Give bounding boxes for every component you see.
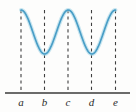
tick-label-c: c [66,96,71,108]
tick-label-group: a b c d e [18,96,118,108]
tick-label-d: d [89,96,95,108]
tick-label-a: a [18,96,24,108]
tick-label-b: b [42,96,48,108]
figure-container: a b c d e [0,0,136,112]
dashed-line-group [21,10,116,93]
tick-label-e: e [113,96,118,108]
cosine-curve-figure: a b c d e [0,0,136,112]
